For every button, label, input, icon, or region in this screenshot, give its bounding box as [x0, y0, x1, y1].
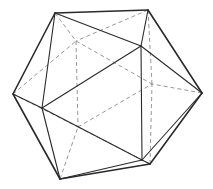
- front-edge-GD: [141, 46, 202, 93]
- front-edge-BG: [141, 10, 148, 46]
- hidden-edge-EK: [60, 127, 78, 179]
- front-edge-AG: [55, 13, 141, 46]
- outline-edge-FE: [60, 164, 150, 179]
- hidden-edge-FL: [150, 84, 152, 164]
- outline-edge-EC: [13, 94, 60, 179]
- front-edge-GI: [141, 46, 142, 160]
- hidden-edges: [13, 10, 202, 179]
- front-edge-GH: [42, 46, 141, 108]
- front-edge-HE: [42, 108, 60, 179]
- outline-edge-AB: [55, 10, 148, 13]
- outline-edges: [13, 10, 202, 179]
- outline-edge-CA: [13, 13, 55, 94]
- front-edges: [13, 10, 202, 179]
- outline-edge-DF: [150, 93, 202, 164]
- outline-edge-BD: [148, 10, 202, 93]
- hidden-edge-DL: [152, 84, 202, 93]
- hidden-edge-JK: [76, 41, 78, 127]
- front-edge-HI: [42, 108, 142, 160]
- hidden-edge-BL: [148, 10, 152, 84]
- icosahedron-diagram: [0, 0, 213, 189]
